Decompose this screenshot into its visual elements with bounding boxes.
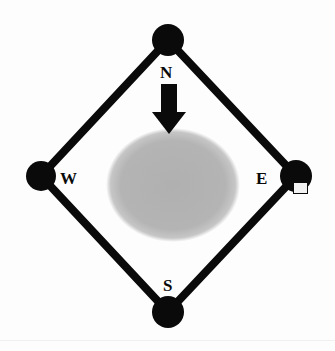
direction-label-east: E <box>256 170 267 187</box>
direction-label-north: N <box>160 64 172 81</box>
node-west[interactable] <box>26 161 56 191</box>
direction-label-south: S <box>163 277 172 294</box>
diagram-canvas <box>0 0 335 351</box>
direction-label-west: W <box>60 170 77 187</box>
compass-diagram: N E S W <box>0 0 335 351</box>
bottom-divider <box>0 340 335 341</box>
down-arrow-icon <box>152 84 186 134</box>
node-south[interactable] <box>152 296 184 328</box>
east-square-marker <box>294 183 308 194</box>
node-north[interactable] <box>152 24 184 56</box>
center-disc <box>106 128 240 242</box>
